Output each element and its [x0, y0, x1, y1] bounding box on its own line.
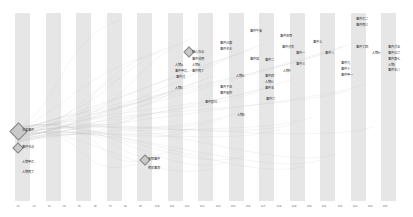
- event-label: 事件四: [265, 74, 274, 78]
- event-label: 事件癸: [250, 57, 259, 61]
- event-label: 事件子丑: [220, 85, 232, 89]
- event-label: 事件寅卯: [220, 91, 232, 95]
- axis-tick-label: t17: [261, 205, 265, 208]
- event-label: 事件辰巳: [205, 100, 217, 104]
- axis-tick-label: t13: [200, 205, 204, 208]
- event-label: 人物I: [388, 63, 395, 67]
- axis-tick-label: t15: [231, 205, 235, 208]
- event-node-label: 核心节点: [192, 50, 204, 54]
- event-label: 人物D: [236, 74, 244, 78]
- event-label: 事件己六: [388, 51, 400, 55]
- axis-tick-label: t7: [109, 205, 112, 208]
- event-label: 事件戊五: [388, 45, 400, 49]
- axis-tick-label: t18: [277, 205, 281, 208]
- axis-tick-label: t20: [307, 205, 311, 208]
- event-label: 事件辛八: [388, 68, 400, 72]
- axis-tick-label: t22: [338, 205, 342, 208]
- event-label: 事件丙三: [356, 23, 368, 27]
- event-label: 事件午未: [250, 29, 262, 33]
- event-label: 事件二: [265, 58, 274, 62]
- axis-tick-label: t11: [170, 205, 174, 208]
- event-label: 事件辛壬: [220, 47, 232, 51]
- axis-tick-label: t25: [383, 205, 387, 208]
- event-label: 事件乙二: [356, 17, 368, 21]
- event-label: 事件七: [313, 40, 322, 44]
- axis-tick-label: t19: [292, 205, 296, 208]
- axis-tick-label: t1: [17, 205, 20, 208]
- event-label: 事件九: [341, 61, 350, 65]
- event-node-label: 关联事件: [148, 157, 160, 161]
- event-label: 人物G: [265, 80, 273, 84]
- event-label: 事件六: [266, 97, 275, 101]
- event-label: 事件戊: [176, 75, 185, 79]
- axis-tick-label: t10: [155, 205, 159, 208]
- axis-tick-label: t23: [353, 205, 357, 208]
- event-label: 事件庚七: [388, 57, 400, 61]
- axis-tick-label: t16: [246, 205, 250, 208]
- event-label: 人物A: [175, 63, 183, 67]
- event-label: 事件八: [325, 51, 334, 55]
- event-label: 事件五: [265, 86, 274, 90]
- event-label: 事件己庚: [220, 41, 232, 45]
- axis-tick-label: t4: [63, 205, 66, 208]
- axis-tick-label: t12: [185, 205, 189, 208]
- event-label: 人物E: [237, 113, 245, 117]
- event-label: 事件一: [296, 51, 305, 55]
- storyline-paths: [0, 0, 413, 217]
- event-label: 事件申酉: [280, 34, 292, 38]
- event-label: 人物C: [175, 86, 183, 90]
- event-label: 相关事项: [148, 166, 160, 170]
- event-label: 人物H: [372, 51, 380, 55]
- event-node-label: 主要事件: [22, 128, 34, 132]
- event-label: 人物F: [283, 69, 291, 73]
- event-label: 事件甲乙: [175, 69, 187, 73]
- event-label: 人物丙丁: [22, 170, 34, 174]
- event-label: 人物甲乙: [22, 160, 34, 164]
- event-label: 事件十: [341, 67, 350, 71]
- storyline-diagram: 主要事件事件节点关联事件核心节点 人物甲乙人物丙丁相关事项事件说明人物A人物B事…: [0, 0, 413, 217]
- axis-tick-label: t24: [368, 205, 372, 208]
- event-label: 事件三: [296, 62, 305, 66]
- axis-tick-label: t6: [94, 205, 97, 208]
- axis-tick-label: t2: [33, 205, 36, 208]
- axis-tick-label: t21: [322, 205, 326, 208]
- axis-tick-label: t9: [139, 205, 142, 208]
- event-label: 事件丁四: [356, 45, 368, 49]
- event-node-label: 事件节点: [22, 145, 34, 149]
- axis-tick-label: t8: [124, 205, 127, 208]
- event-label: 事件说明: [192, 57, 204, 61]
- axis-tick-label: t3: [48, 205, 51, 208]
- event-label: 事件丙丁: [192, 69, 204, 73]
- event-label: 人物B: [192, 63, 200, 67]
- event-label: 事件戌亥: [282, 45, 294, 49]
- axis-tick-label: t5: [78, 205, 81, 208]
- event-label: 事件甲一: [341, 73, 353, 77]
- axis-tick-label: t14: [216, 205, 220, 208]
